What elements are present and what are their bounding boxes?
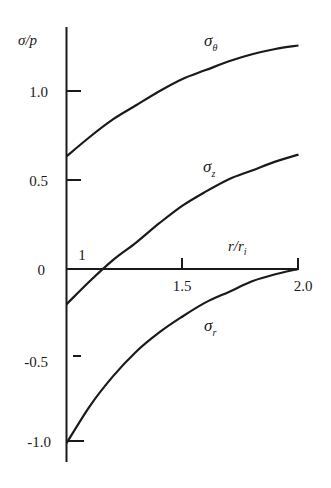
x-axis-title-main: r/r xyxy=(228,238,244,254)
y-tick-label-0: 0 xyxy=(38,262,46,278)
chart: 1.0 0.5 0 -0.5 -1.0 1 1.5 2.0 σ/p r/ri σ… xyxy=(0,0,331,488)
x-axis-title: r/ri xyxy=(228,238,247,257)
label-sigma-theta-sub: θ xyxy=(212,42,217,53)
y-tick-label-1: 1.0 xyxy=(29,84,48,100)
y-tick-label-m05: -0.5 xyxy=(24,354,48,370)
x-origin-label: 1 xyxy=(78,247,86,263)
curve-sigma-theta xyxy=(67,46,299,157)
x-tick-label-15: 1.5 xyxy=(173,278,192,294)
x-axis-title-sub: i xyxy=(244,246,247,257)
y-tick-label-m1: -1.0 xyxy=(27,434,51,450)
curve-sigma-r xyxy=(67,269,299,443)
y-axis-title: σ/p xyxy=(18,32,38,48)
label-sigma-theta: σθ xyxy=(204,31,217,53)
x-tick-label-20: 2.0 xyxy=(294,278,313,294)
label-sigma-r-sub: r xyxy=(212,327,216,338)
y-tick-label-05: 0.5 xyxy=(29,173,48,189)
label-sigma-z-sub: z xyxy=(210,168,215,179)
label-sigma-z: σz xyxy=(203,157,215,179)
label-sigma-r: σr xyxy=(204,316,216,338)
